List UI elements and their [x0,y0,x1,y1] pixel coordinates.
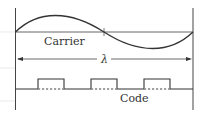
arrowhead-left-icon [17,57,23,61]
wavelength-label: λ [100,53,108,66]
carrier-code-diagram: Carrier λ Code [0,0,197,122]
carrier-label: Carrier [44,35,86,48]
code-label: Code [120,92,149,105]
code-signal [16,79,194,89]
arrowhead-right-icon [186,57,192,61]
